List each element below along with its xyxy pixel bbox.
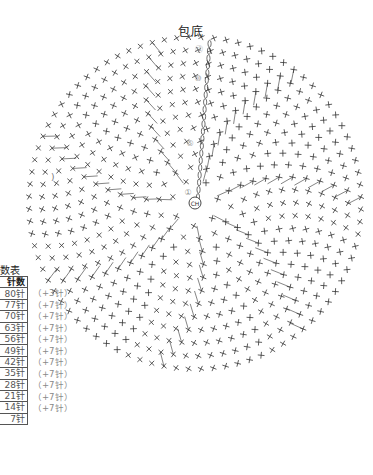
increase-label: （+7针）: [33, 300, 73, 312]
increase-label: （+3针）: [33, 288, 73, 300]
stitch-count-cell: 21针: [0, 390, 28, 401]
increase-label: （+7针）: [33, 346, 73, 358]
stitch-count-table: 针数80针77针70针63针56针49针42针35针28针21针14针7针: [0, 276, 28, 425]
stitch-count-cell: 63针: [0, 322, 28, 333]
svg-text:CH: CH: [191, 200, 200, 207]
stray-text: ): [51, 172, 55, 182]
stitch-count-cell: 35针: [0, 368, 28, 379]
row-marker: ①: [184, 188, 191, 197]
increase-label: （+7针）: [33, 311, 73, 323]
stitch-count-cell: 49针: [0, 345, 28, 356]
increase-label: （+7针）: [33, 334, 73, 346]
row-marker: ⑤: [186, 139, 193, 148]
stitch-count-cell: 80针: [0, 288, 28, 299]
increase-label: （+7针）: [33, 357, 73, 369]
stitch-count-cell: 77针: [0, 299, 28, 310]
increase-label: （+7针）: [33, 392, 73, 404]
increase-label: （+7针）: [33, 380, 73, 392]
increase-label: [33, 415, 73, 427]
increase-label: （+7针）: [33, 369, 73, 381]
stitch-count-cell: 70针: [0, 311, 28, 322]
increase-column: （+3针）（+7针）（+7针）（+7针）（+7针）（+7针）（+7针）（+7针）…: [33, 288, 73, 426]
stitch-count-cell: 7针: [0, 413, 28, 424]
stitch-count-cell: 42针: [0, 356, 28, 367]
row-marker: ⑩: [194, 74, 201, 83]
table-header: 针数: [0, 277, 28, 288]
stitch-count-cell: 56针: [0, 333, 28, 344]
increase-label: （+7针）: [33, 323, 73, 335]
increase-label: （+7针）: [33, 403, 73, 415]
stitch-count-cell: 28针: [0, 379, 28, 390]
stitch-table-title: 数表: [0, 262, 20, 277]
row-marker: ⑫: [195, 45, 203, 54]
stitch-count-cell: 14针: [0, 402, 28, 413]
